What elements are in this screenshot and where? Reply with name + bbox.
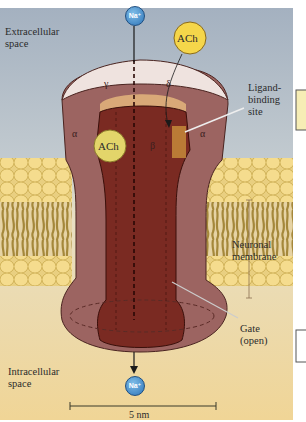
subunit-alpha-left: α xyxy=(72,128,77,139)
ligand-binding-site xyxy=(172,126,186,158)
membrane-left xyxy=(0,158,72,286)
ach-free-label: ACh xyxy=(177,32,198,44)
intracellular-label-line2: space xyxy=(8,378,59,390)
binding-label-line3: site xyxy=(248,106,281,118)
receptor-channel xyxy=(61,60,228,352)
intracellular-label: Intracellular space xyxy=(8,366,59,390)
ach-bound-label: ACh xyxy=(98,140,119,152)
edge-box-top xyxy=(296,90,306,130)
ligand-binding-site-label: Ligand- binding site xyxy=(248,82,281,118)
diagram-canvas xyxy=(0,0,306,422)
extracellular-label-line2: space xyxy=(5,38,59,50)
membrane-label-line1: Neuronal xyxy=(232,239,276,251)
sodium-ion-top-label: Na⁺ xyxy=(129,12,142,20)
binding-label-line2: binding xyxy=(248,94,281,106)
membrane-label-line2: membrane xyxy=(232,251,276,263)
gate-label: Gate (open) xyxy=(240,323,267,347)
sodium-ion-bottom-label: Na⁺ xyxy=(129,382,142,390)
extracellular-label: Extracellular space xyxy=(5,26,59,50)
subunit-gamma: γ xyxy=(104,78,108,89)
membrane-right xyxy=(204,158,293,286)
extracellular-label-line1: Extracellular xyxy=(5,26,59,38)
scale-bar-label: 5 nm xyxy=(129,409,149,421)
subunit-delta: δ xyxy=(166,78,171,89)
intracellular-label-line1: Intracellular xyxy=(8,366,59,378)
sodium-ion-bottom: Na⁺ xyxy=(125,376,145,396)
subunit-alpha-right: α xyxy=(200,128,205,139)
gate-label-line2: (open) xyxy=(240,335,267,347)
binding-label-line1: Ligand- xyxy=(248,82,281,94)
neuronal-membrane-label: Neuronal membrane xyxy=(232,239,276,263)
sodium-ion-top: Na⁺ xyxy=(125,6,145,26)
edge-box-bottom xyxy=(296,330,306,362)
acetylcholine-receptor-diagram: Extracellular space Intracellular space … xyxy=(0,0,306,422)
gate-label-line1: Gate xyxy=(240,323,267,335)
subunit-beta: β xyxy=(150,140,155,151)
